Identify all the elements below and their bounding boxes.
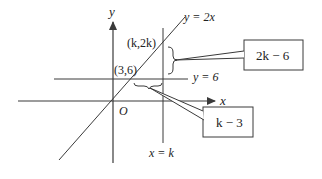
line-y-equals-2x: [59, 17, 185, 160]
line-y-equals-6-label: y = 6: [192, 70, 218, 84]
y-axis-label: y: [107, 4, 115, 19]
callout-pointer-k-minus-3: [150, 88, 204, 120]
callout-label-k-minus-3: k − 3: [216, 115, 243, 130]
line-y-equals-2x-label: y = 2x: [183, 10, 215, 24]
origin-label: O: [119, 104, 128, 118]
coordinate-diagram: y x O y = 2x y = 6 x = k (k,2k) (3,6) 2k…: [0, 0, 322, 179]
horizontal-brace: [134, 83, 162, 89]
point-3-6-label: (3,6): [114, 63, 137, 77]
line-x-equals-k-label: x = k: [148, 146, 174, 160]
callout-pointer-2k-minus-6: [176, 51, 244, 60]
point-k-2k-label: (k,2k): [127, 36, 156, 50]
vertical-brace: [168, 47, 177, 74]
x-axis-label: x: [219, 93, 226, 108]
callout-label-2k-minus-6: 2k − 6: [256, 48, 290, 63]
